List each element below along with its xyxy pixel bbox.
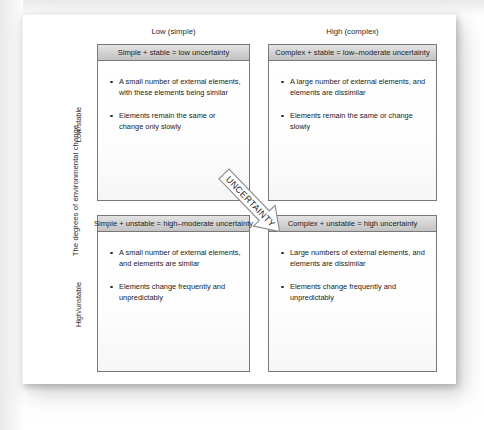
bullet-dot-icon [281,115,284,118]
bullet-dot-icon [110,252,113,255]
list-item-text: Elements remain the same or change slowl… [290,111,413,131]
list-item: A small number of external elements, and… [110,248,241,269]
quadrant-body-simple-unstable: A small number of external elements, and… [98,232,249,371]
list-item: A small number of external elements, wit… [110,77,241,98]
column-caption-low-simple: Low (simple) [97,27,250,36]
bullet-dot-icon [281,81,284,84]
list-item-text: A small number of external elements, wit… [119,77,241,97]
quadrant-simple-unstable: Simple + unstable = high–moderate uncert… [97,215,250,372]
quadrant-complex-unstable: Complex + unstable = high uncertainty La… [268,215,437,372]
quadrant-complex-stable: Complex + stable = low–moderate uncertai… [268,44,437,201]
quadrant-header-simple-unstable: Simple + unstable = high–moderate uncert… [98,216,249,232]
list-item: Elements remain the same or change slowl… [281,111,428,132]
list-item: Elements remain the same or change only … [110,111,241,132]
list-item-text: A large number of external elements, and… [290,77,425,97]
bullet-list: A small number of external elements, wit… [110,77,241,132]
list-item-text: A small number of external elements, and… [119,248,241,268]
list-item: Elements change frequently and unpredict… [281,282,428,303]
bullet-dot-icon [281,252,284,255]
quadrant-header-simple-stable: Simple + stable = low uncertainty [98,45,249,61]
bullet-list: Large numbers of external elements, and … [281,248,428,303]
bullet-list: A large number of external elements, and… [281,77,428,132]
quadrant-body-complex-stable: A large number of external elements, and… [269,61,436,200]
list-item: A large number of external elements, and… [281,77,428,98]
list-item: Large numbers of external elements, and … [281,248,428,269]
quadrant-header-complex-stable: Complex + stable = low–moderate uncertai… [269,45,436,61]
list-item-text: Elements change frequently and unpredict… [290,282,396,302]
quadrant-simple-stable: Simple + stable = low uncertainty A smal… [97,44,250,201]
quadrant-body-simple-stable: A small number of external elements, wit… [98,61,249,200]
bullet-dot-icon [281,286,284,289]
quadrant-header-complex-unstable: Complex + unstable = high uncertainty [269,216,436,232]
bullet-dot-icon [110,115,113,118]
y-axis-label-low: Low/stable [74,65,83,185]
quadrant-body-complex-unstable: Large numbers of external elements, and … [269,232,436,371]
scan-gutter-top [0,0,484,15]
scan-gutter-left [0,0,23,430]
bullet-dot-icon [110,81,113,84]
column-caption-high-complex: High (complex) [268,27,437,36]
list-item: Elements change frequently and unpredict… [110,282,241,303]
y-axis-label-high: High/unstable [74,245,83,365]
bullet-dot-icon [110,286,113,289]
bullet-list: A small number of external elements, and… [110,248,241,303]
list-item-text: Elements remain the same or change only … [119,111,216,131]
list-item-text: Large numbers of external elements, and … [290,248,425,268]
list-item-text: Elements change frequently and unpredict… [119,282,225,302]
